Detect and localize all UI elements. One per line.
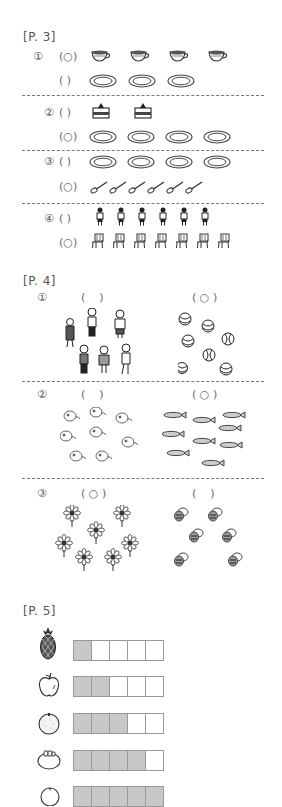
plate-icon: [89, 155, 117, 169]
bar-cell[interactable]: [146, 641, 163, 660]
teacup-row: [90, 49, 229, 63]
answer-box[interactable]: (○): [59, 130, 77, 143]
chair-icon: [217, 233, 231, 249]
bar-cell[interactable]: [74, 787, 92, 806]
answer-box[interactable]: ( ): [59, 106, 71, 119]
spoon-icon: [109, 180, 127, 194]
answer-box[interactable]: ( ): [81, 291, 104, 304]
saucer-row: [89, 74, 195, 88]
spoon-icon: [166, 180, 184, 194]
page5-header: [P. 5]: [23, 604, 56, 618]
plate-icon: [89, 130, 117, 144]
answer-box[interactable]: ( ): [192, 487, 215, 500]
child-icon: [137, 207, 147, 226]
chair-icon: [133, 233, 147, 249]
bar-cell[interactable]: [74, 677, 92, 696]
plate-row: [89, 130, 231, 144]
count-bar-peach: [73, 786, 164, 807]
divider: [22, 150, 264, 151]
question-number: ①: [35, 291, 49, 304]
bar-cell[interactable]: [110, 677, 128, 696]
answer-box[interactable]: ( ○ ): [81, 487, 106, 500]
spoon-icon: [128, 180, 146, 194]
pineapple-icon: [39, 627, 57, 661]
plate-icon: [165, 155, 193, 169]
peach-icon: [40, 786, 60, 806]
question-number: ④: [42, 212, 56, 225]
saucer-icon: [167, 74, 195, 88]
chair-icon: [175, 233, 189, 249]
child-icon: [158, 207, 168, 226]
bees-group: [172, 505, 246, 575]
answer-box[interactable]: (○): [59, 180, 77, 193]
chair-icon: [91, 233, 105, 249]
bar-cell[interactable]: [146, 677, 163, 696]
chair-icon: [196, 233, 210, 249]
page4-header: [P. 4]: [23, 274, 56, 288]
divider: [22, 203, 264, 204]
bar-cell[interactable]: [146, 787, 163, 806]
chair-row: [91, 233, 231, 249]
child-row: [95, 207, 210, 226]
bar-cell[interactable]: [110, 787, 128, 806]
bar-cell[interactable]: [92, 714, 110, 733]
saucer-icon: [128, 74, 156, 88]
fish-group: [162, 410, 248, 470]
bar-cell[interactable]: [146, 751, 163, 770]
bar-cell[interactable]: [110, 714, 128, 733]
page3-header: [P. 3]: [23, 30, 56, 44]
bar-cell[interactable]: [92, 641, 110, 660]
answer-box[interactable]: (○): [59, 236, 77, 249]
spoon-icon: [147, 180, 165, 194]
bar-cell[interactable]: [128, 641, 146, 660]
plate-icon: [165, 130, 193, 144]
bar-cell[interactable]: [110, 751, 128, 770]
chair-icon: [112, 233, 126, 249]
bar-cell[interactable]: [92, 751, 110, 770]
count-bar-pineapple: [73, 640, 164, 661]
teacup-icon: [207, 49, 229, 63]
bar-cell[interactable]: [92, 787, 110, 806]
answer-box[interactable]: ( ): [59, 212, 71, 225]
answer-box[interactable]: ( ): [81, 388, 104, 401]
cake-icon: [133, 102, 153, 119]
bar-cell[interactable]: [146, 714, 163, 733]
divider: [22, 381, 264, 382]
balls-group: [178, 312, 238, 378]
plate-icon: [127, 155, 155, 169]
count-bar-apple: [73, 676, 164, 697]
persimmon-icon: [37, 748, 61, 770]
orange-icon: [38, 711, 60, 735]
question-number: ②: [42, 106, 56, 119]
answer-box[interactable]: ( ○ ): [192, 388, 217, 401]
divider: [22, 478, 264, 479]
bar-cell[interactable]: [128, 751, 146, 770]
divider: [22, 95, 264, 96]
bar-cell[interactable]: [128, 677, 146, 696]
bar-cell[interactable]: [110, 641, 128, 660]
bar-cell[interactable]: [128, 714, 146, 733]
answer-box[interactable]: ( ): [59, 155, 71, 168]
bar-cell[interactable]: [74, 714, 92, 733]
bar-cell[interactable]: [128, 787, 146, 806]
spoon-icon: [185, 180, 203, 194]
plate-icon: [203, 155, 231, 169]
child-icon: [200, 207, 210, 226]
bar-cell[interactable]: [74, 641, 92, 660]
bar-cell[interactable]: [92, 677, 110, 696]
chair-icon: [154, 233, 168, 249]
answer-box[interactable]: (○): [59, 50, 77, 63]
spoon-icon: [90, 180, 108, 194]
cake-icon: [91, 102, 111, 119]
answer-box[interactable]: ( ): [59, 74, 71, 87]
plate-icon: [203, 130, 231, 144]
bar-cell[interactable]: [74, 751, 92, 770]
cats-group: [60, 407, 140, 469]
child-icon: [116, 207, 126, 226]
count-bar-orange: [73, 713, 164, 734]
saucer-icon: [89, 74, 117, 88]
plate-icon: [127, 130, 155, 144]
teacup-icon: [90, 49, 112, 63]
child-icon: [179, 207, 189, 226]
answer-box[interactable]: ( ○ ): [192, 291, 217, 304]
